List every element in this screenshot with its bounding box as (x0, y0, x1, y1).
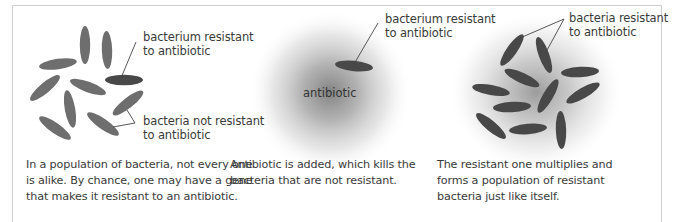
caption-line: forms a population of resistant (437, 173, 612, 189)
label-line: bacteria not resistant (143, 114, 264, 128)
non-resistant-bacterium (110, 87, 146, 119)
non-resistant-bacterium (80, 26, 90, 64)
caption-line: bacteria just like itself. (437, 189, 612, 205)
label-line: bacteria resistant (569, 11, 668, 25)
caption-line: In a population of bacteria, not every o… (26, 157, 253, 173)
non-resistant-bacterium (27, 72, 63, 104)
antibiotic-label: antibiotic (303, 86, 357, 100)
caption-panel1: In a population of bacteria, not every o… (26, 157, 253, 205)
label-line: bacterium resistant (143, 30, 254, 44)
label-bacterium-resistant-panel1: bacterium resistant to antibiotic (143, 30, 254, 58)
label-line: to antibiotic (569, 25, 668, 39)
resistant-bacterium (105, 75, 143, 85)
label-bacteria-resistant-panel3: bacteria resistant to antibiotic (569, 11, 668, 39)
leader-line-resistant-panel1 (121, 42, 136, 78)
label-line: to antibiotic (143, 44, 254, 58)
label-line: bacterium resistant (385, 12, 496, 26)
caption-line: is alike. By chance, one may have a gene (26, 173, 253, 189)
non-resistant-bacterium (68, 76, 107, 99)
non-resistant-bacterium (101, 31, 113, 69)
non-resistant-bacterium (62, 89, 79, 128)
caption-panel2: Antibiotic is added, which kills the bac… (230, 157, 415, 189)
non-resistant-bacterium (38, 56, 77, 72)
caption-line: that makes it resistant to an antibiotic… (26, 189, 253, 205)
label-line: to antibiotic (143, 128, 264, 142)
caption-line: bacteria that are not resistant. (230, 173, 415, 189)
caption-line: The resistant one multiplies and (437, 157, 612, 173)
label-bacterium-resistant-panel2: bacterium resistant to antibiotic (385, 12, 496, 40)
label-line: to antibiotic (385, 26, 496, 40)
caption-line: Antibiotic is added, which kills the (230, 157, 415, 173)
label-bacteria-not-resistant-panel1: bacteria not resistant to antibiotic (143, 114, 264, 142)
caption-panel3: The resistant one multiplies and forms a… (437, 157, 612, 205)
